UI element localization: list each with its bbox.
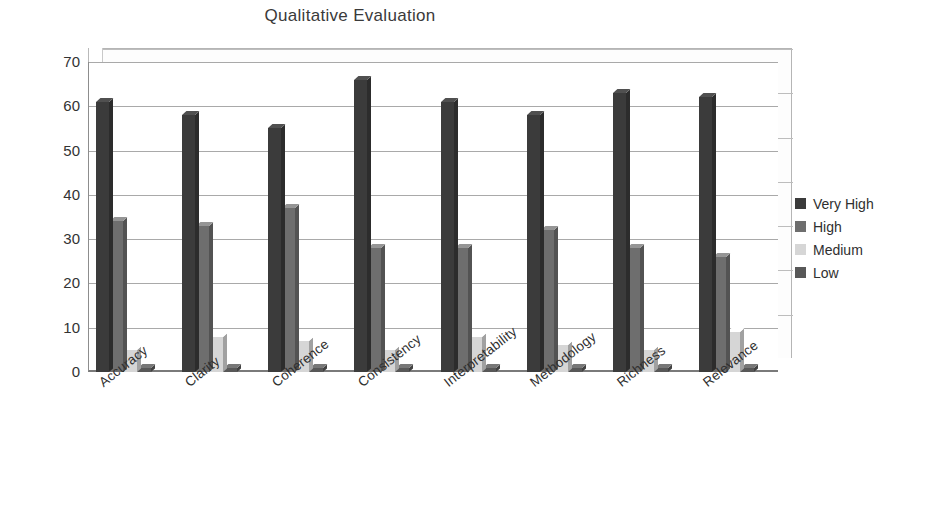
bar-group xyxy=(174,62,260,372)
bar[interactable] xyxy=(699,97,712,372)
bar-group xyxy=(519,62,605,372)
legend-swatch-icon xyxy=(795,221,806,232)
bar-side xyxy=(281,125,285,372)
chart-container: Qualitative Evaluation 010203040506070 A… xyxy=(0,0,942,513)
bar-group xyxy=(261,62,347,372)
plot-wrapper: 010203040506070 AccuracyClarityCoherence… xyxy=(0,0,800,400)
y-tick-label: 10 xyxy=(34,319,80,336)
legend-swatch-icon xyxy=(795,267,806,278)
bar-side xyxy=(454,98,458,372)
bar-face xyxy=(441,102,454,372)
bar-side xyxy=(540,112,544,372)
legend-label: Very High xyxy=(813,196,874,212)
bar-face xyxy=(182,115,195,372)
y-tick-label: 30 xyxy=(34,230,80,247)
legend-item[interactable]: Medium xyxy=(795,238,935,261)
bar-side xyxy=(223,333,227,372)
y-tick-label: 0 xyxy=(34,363,80,380)
y-axis-ticks: 010203040506070 xyxy=(34,62,80,372)
bar-side xyxy=(367,76,371,372)
legend-item[interactable]: High xyxy=(795,215,935,238)
y-tick-label: 50 xyxy=(34,142,80,159)
bar-side xyxy=(295,205,299,372)
bar-side xyxy=(123,218,127,372)
y-tick-label: 40 xyxy=(34,186,80,203)
legend-swatch-icon xyxy=(795,244,806,255)
bar[interactable] xyxy=(527,115,540,372)
bar[interactable] xyxy=(182,115,195,372)
bar-face xyxy=(354,80,367,372)
chart-legend: Very HighHighMediumLow xyxy=(795,192,935,284)
x-axis-labels: AccuracyClarityCoherenceConsistencyInter… xyxy=(88,378,778,498)
legend-label: Low xyxy=(813,265,839,281)
bar-face xyxy=(527,115,540,372)
bar-face xyxy=(613,93,626,372)
bar[interactable] xyxy=(354,80,367,372)
bar[interactable] xyxy=(613,93,626,372)
bar-face xyxy=(699,97,712,372)
bar-face xyxy=(96,102,109,372)
bar-side xyxy=(626,89,630,372)
bar-group xyxy=(347,62,433,372)
bar-side xyxy=(712,94,716,372)
y-tick-label: 20 xyxy=(34,274,80,291)
bar-side xyxy=(209,222,213,372)
bar-group xyxy=(606,62,692,372)
bar-face xyxy=(268,128,281,372)
bar-group xyxy=(88,62,174,372)
bar-side xyxy=(109,98,113,372)
legend-item[interactable]: Very High xyxy=(795,192,935,215)
y-tick-label: 70 xyxy=(34,53,80,70)
bar-group xyxy=(692,62,778,372)
bar-side xyxy=(381,244,385,372)
legend-item[interactable]: Low xyxy=(795,261,935,284)
bar-side xyxy=(195,112,199,372)
bar[interactable] xyxy=(268,128,281,372)
bar-side xyxy=(640,244,644,372)
legend-label: Medium xyxy=(813,242,863,258)
bar[interactable] xyxy=(441,102,454,372)
bar-side xyxy=(554,227,558,372)
y-tick-label: 60 xyxy=(34,97,80,114)
bars-layer xyxy=(88,62,778,372)
bar[interactable] xyxy=(96,102,109,372)
legend-label: High xyxy=(813,219,842,235)
gridline-back xyxy=(103,49,793,50)
legend-swatch-icon xyxy=(795,198,806,209)
